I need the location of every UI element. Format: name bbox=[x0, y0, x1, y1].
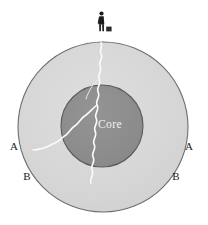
core-label: Core bbox=[98, 118, 122, 130]
diagram-canvas: A A B B Core bbox=[0, 0, 208, 225]
observer-case bbox=[106, 27, 111, 32]
observer-leg-left bbox=[99, 24, 101, 31]
observer-head bbox=[99, 11, 103, 15]
label-a-left: A bbox=[10, 140, 18, 152]
label-b-right: B bbox=[172, 170, 179, 182]
observer-figure bbox=[98, 11, 112, 31]
label-a-right: A bbox=[185, 140, 193, 152]
label-b-left: B bbox=[23, 170, 30, 182]
planet-cross-section-diagram: A A B B Core bbox=[0, 0, 208, 225]
observer-leg-right bbox=[102, 24, 104, 31]
